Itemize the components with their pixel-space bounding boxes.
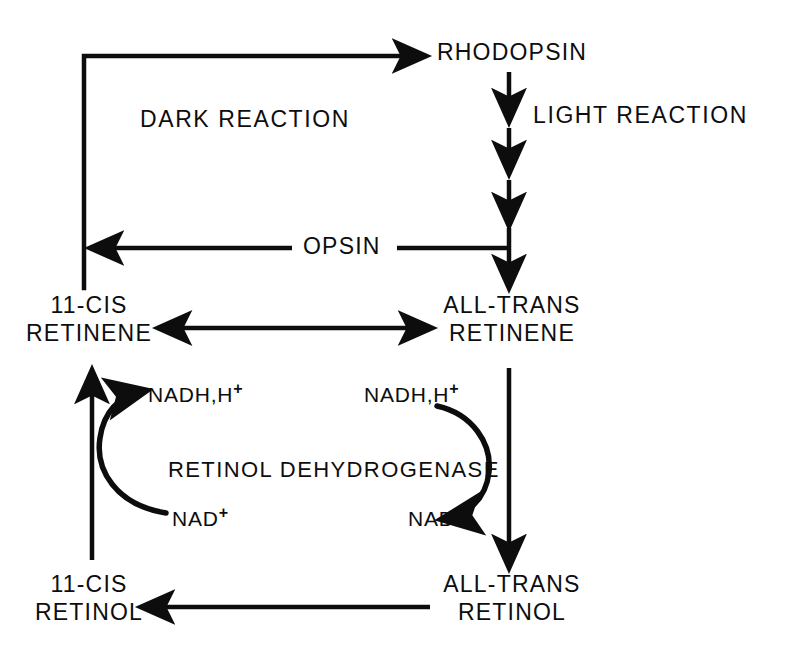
node-11-cis-retinol: 11-CIS RETINOL	[24, 570, 154, 626]
cofactor-nad-right-superscript: +	[455, 504, 464, 521]
cofactor-nad-left: NAD+	[172, 503, 228, 532]
node-all-trans-retinene: ALL-TRANS RETINENE	[437, 291, 587, 347]
label-dark-reaction: DARK REACTION	[140, 105, 350, 134]
node-11-cis-retinene-line1: 11-CIS	[24, 291, 154, 319]
node-11-cis-retinene-line2: RETINENE	[24, 319, 154, 347]
cofactor-nadh-left-base: NADH,H	[148, 383, 233, 406]
cofactor-nad-left-base: NAD	[172, 507, 219, 530]
cofactor-nadh-right-base: NADH,H	[364, 383, 449, 406]
cofactor-nadh-left: NADH,H+	[148, 379, 243, 408]
label-light-reaction: LIGHT REACTION	[533, 101, 748, 130]
diagram-canvas: RHODOPSIN DARK REACTION LIGHT REACTION O…	[0, 0, 785, 670]
cofactor-nad-left-superscript: +	[219, 504, 228, 521]
cofactor-nad-right: NAD+	[408, 503, 464, 532]
cofactor-nad-right-base: NAD	[408, 507, 455, 530]
cofactor-nadh-right: NADH,H+	[364, 379, 459, 408]
node-all-trans-retinene-line1: ALL-TRANS	[437, 291, 587, 319]
node-11-cis-retinene: 11-CIS RETINENE	[24, 291, 154, 347]
node-all-trans-retinol-line2: RETINOL	[437, 598, 587, 626]
node-all-trans-retinol: ALL-TRANS RETINOL	[437, 570, 587, 626]
left-cofactor-curve	[99, 391, 166, 513]
node-rhodopsin: RHODOPSIN	[437, 38, 587, 67]
node-opsin: OPSIN	[303, 232, 381, 261]
node-all-trans-retinol-line1: ALL-TRANS	[437, 570, 587, 598]
label-retinol-dehydrogenase: RETINOL DEHYDROGENASE	[168, 456, 500, 484]
cofactor-nadh-left-superscript: +	[233, 380, 242, 397]
node-11-cis-retinol-line1: 11-CIS	[24, 570, 154, 598]
cofactor-nadh-right-superscript: +	[449, 380, 458, 397]
node-11-cis-retinol-line2: RETINOL	[24, 598, 154, 626]
node-all-trans-retinene-line2: RETINENE	[437, 319, 587, 347]
